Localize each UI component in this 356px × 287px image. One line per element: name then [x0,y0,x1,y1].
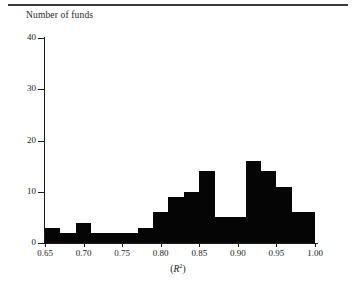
histogram-bar [184,192,199,243]
histogram-bar [246,161,261,243]
y-tick-mark [38,192,45,193]
y-tick-mark [38,243,45,244]
histogram-bar [153,212,168,243]
x-tick-mark [45,243,46,247]
histogram-bar [261,171,276,243]
x-axis-title: (R2) [0,262,356,274]
y-tick-label: 40 [0,32,36,42]
histogram-bars [45,38,315,243]
y-axis-title: Number of funds [26,10,93,20]
top-rule-divider [8,4,348,6]
y-tick-mark [38,89,45,90]
histogram-bar [276,187,291,243]
histogram-bar [199,171,214,243]
x-tick-label: 0.95 [269,248,285,258]
histogram-bar [76,223,91,244]
histogram-bar [138,228,153,243]
histogram-bar [122,233,137,243]
histogram-bar [168,197,183,243]
histogram-bar [107,233,122,243]
x-tick-label: 0.90 [230,248,246,258]
x-tick-mark [84,243,85,247]
plot-area [45,38,315,243]
histogram-bar [91,233,106,243]
x-tick-label: 1.00 [307,248,323,258]
x-tick-mark [276,243,277,247]
x-tick-mark [199,243,200,247]
x-tick-label: 0.85 [191,248,207,258]
histogram-bar [230,217,245,243]
histogram-bar [215,217,230,243]
histogram-bar [307,212,315,243]
x-tick-label: 0.75 [114,248,130,258]
x-tick-mark [122,243,123,247]
x-axis-title-suffix: ) [183,264,186,274]
x-tick-mark [238,243,239,247]
y-tick-label: 30 [0,83,36,93]
x-tick-label: 0.65 [37,248,53,258]
histogram-bar [45,228,60,243]
y-tick-mark [38,141,45,142]
x-tick-label: 0.70 [76,248,92,258]
y-tick-label: 10 [0,186,36,196]
y-tick-label: 20 [0,135,36,145]
histogram-figure: Number of funds 010203040 0.650.700.750.… [0,0,356,287]
y-tick-label: 0 [0,237,36,247]
y-tick-mark [38,38,45,39]
histogram-bar [292,212,307,243]
x-tick-mark [161,243,162,247]
histogram-bar [60,233,75,243]
x-tick-label: 0.80 [153,248,169,258]
x-tick-mark [315,243,316,247]
